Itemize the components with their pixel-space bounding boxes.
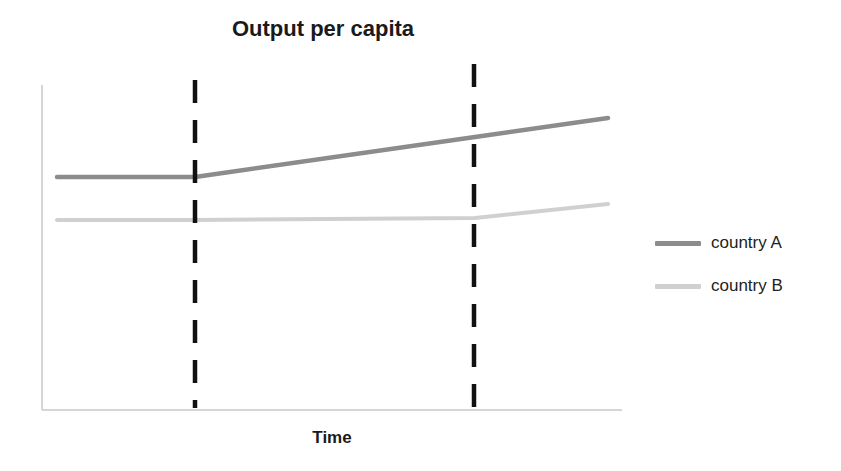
legend-item-country-a: country A: [655, 232, 783, 254]
x-axis-label: Time: [0, 428, 664, 448]
legend: country A country B: [655, 232, 783, 318]
series-line-country-b: [57, 204, 608, 220]
legend-swatch-country-b: [655, 284, 701, 289]
legend-swatch-country-a: [655, 241, 701, 246]
legend-label: country B: [711, 276, 783, 296]
legend-label: country A: [711, 233, 782, 253]
legend-item-country-b: country B: [655, 275, 783, 297]
series-line-country-a: [57, 118, 608, 177]
